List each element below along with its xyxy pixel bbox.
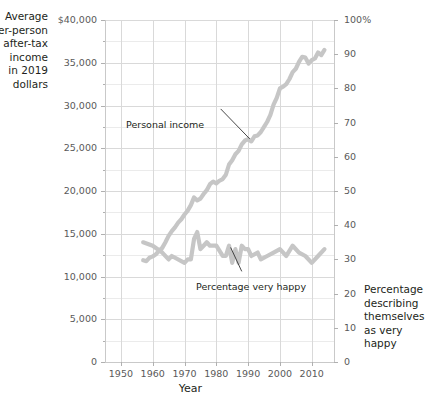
y-tick-label-left: 30,000 (43, 100, 97, 111)
tick-bottom (121, 362, 122, 366)
tick-left (101, 362, 105, 363)
y-tick-label-right: 50 (344, 185, 380, 196)
tick-right (334, 328, 338, 329)
annotation-personal-income: Personal income (126, 119, 204, 130)
y-tick-label-right: 100% (344, 14, 380, 25)
plot-frame-bottom (105, 362, 335, 363)
y-tick-label-right: 20 (344, 288, 380, 299)
y-tick-label-left: 5,000 (43, 313, 97, 324)
tick-bottom (216, 362, 217, 366)
y-tick-label-left: 35,000 (43, 57, 97, 68)
tick-bottom (248, 362, 249, 366)
annotation-percentage-very-happy: Percentage very happy (196, 281, 306, 292)
data-series-layer (105, 20, 334, 362)
y-tick-label-right: 60 (344, 151, 380, 162)
series-line-personal-income (143, 50, 324, 261)
y-tick-label-right: 90 (344, 48, 380, 59)
y-tick-label-right: 70 (344, 117, 380, 128)
tick-right (334, 157, 338, 158)
y-tick-label-left: 0 (43, 356, 97, 367)
tick-right (334, 20, 338, 21)
tick-bottom (312, 362, 313, 366)
y-tick-label-left: 15,000 (43, 228, 97, 239)
y-tick-label-left: 10,000 (43, 271, 97, 282)
y-tick-label-right: 30 (344, 253, 380, 264)
y-tick-label-right: 80 (344, 82, 380, 93)
leader-line-personal-income (221, 109, 250, 139)
tick-bottom (280, 362, 281, 366)
tick-right (334, 54, 338, 55)
y-tick-label-right: 0 (344, 356, 380, 367)
tick-right (334, 259, 338, 260)
y-tick-label-left: $40,000 (43, 14, 97, 25)
x-tick-label: 2010 (292, 368, 332, 379)
y-tick-label-left: 25,000 (43, 142, 97, 153)
y-tick-label-right: 40 (344, 219, 380, 230)
tick-right (334, 294, 338, 295)
y-tick-label-left: 20,000 (43, 185, 97, 196)
plot-area (105, 20, 334, 362)
tick-bottom (153, 362, 154, 366)
y-axis-title-left: Average per-person after-tax income in 2… (0, 10, 48, 92)
tick-right (334, 88, 338, 89)
tick-right (334, 123, 338, 124)
tick-right (334, 225, 338, 226)
y-tick-label-right: 10 (344, 322, 380, 333)
tick-right (334, 191, 338, 192)
x-axis-title: Year (0, 382, 381, 395)
tick-bottom (185, 362, 186, 366)
tick-right (334, 362, 338, 363)
